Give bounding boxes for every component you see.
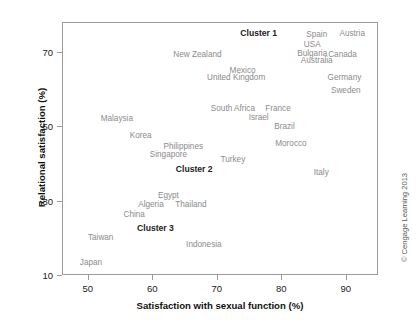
- plot-frame: [62, 22, 378, 275]
- x-tick-mark: [217, 275, 218, 280]
- y-tick-mark: [57, 275, 62, 276]
- x-tick-label: 70: [211, 283, 222, 294]
- x-tick-label: 80: [276, 283, 287, 294]
- y-tick-label: 10: [27, 270, 53, 281]
- y-tick-mark: [57, 126, 62, 127]
- copyright-notice: © Cengage Learning 2013: [400, 143, 409, 293]
- x-tick-mark: [152, 275, 153, 280]
- x-tick-mark: [346, 275, 347, 280]
- x-axis-title: Satisfaction with sexual function (%): [62, 300, 378, 311]
- x-tick-label: 90: [340, 283, 351, 294]
- x-tick-label: 50: [82, 283, 93, 294]
- x-tick-mark: [281, 275, 282, 280]
- y-tick-mark: [57, 201, 62, 202]
- x-tick-label: 60: [147, 283, 158, 294]
- y-tick-mark: [57, 52, 62, 53]
- y-axis-title: Relational satisfaction (%): [36, 28, 47, 268]
- scatter-plot-figure: Austria Spain USA Bulgaria Canada Austra…: [0, 0, 417, 335]
- x-tick-mark: [88, 275, 89, 280]
